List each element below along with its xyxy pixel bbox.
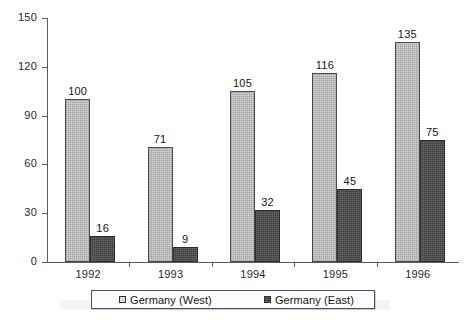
bar-value-label: 9 [182, 233, 188, 245]
y-tick-mark [42, 164, 47, 165]
x-tick-label: 1994 [240, 268, 265, 280]
x-tick-label: 1996 [405, 268, 430, 280]
bar-chart: 0306090120150 10016719105321164513575 19… [0, 0, 469, 323]
bar-group: 13575 [395, 18, 445, 262]
x-tick-label: 1995 [323, 268, 348, 280]
legend-item-germany-east: Germany (East) [264, 294, 354, 306]
bar-value-label: 116 [316, 59, 334, 71]
x-tick-mark [377, 262, 378, 267]
bar-group: 11645 [312, 18, 362, 262]
bar-value-label: 16 [96, 222, 109, 234]
bar-group: 10532 [230, 18, 280, 262]
legend-label-germany-west: Germany (West) [130, 294, 212, 306]
chart-legend: Germany (West) Germany (East) [91, 290, 375, 309]
bar: 32 [255, 210, 280, 262]
hollow-square-marker-icon [119, 296, 126, 303]
bar: 45 [337, 189, 362, 262]
x-tick-mark [129, 262, 130, 267]
bar-value-label: 45 [344, 175, 357, 187]
filled-square-marker-icon [264, 296, 271, 303]
bar: 71 [148, 147, 173, 262]
legend-item-germany-west: Germany (West) [119, 294, 212, 306]
y-tick-label: 60 [24, 157, 37, 169]
bar-value-label: 32 [261, 196, 274, 208]
bar: 16 [90, 236, 115, 262]
x-tick-mark [294, 262, 295, 267]
bar-group: 719 [148, 18, 198, 262]
y-tick-label: 150 [18, 11, 37, 23]
bar-value-label: 75 [426, 126, 439, 138]
bar: 135 [395, 42, 420, 262]
legend-label-germany-east: Germany (East) [275, 294, 354, 306]
y-tick-mark [42, 213, 47, 214]
x-tick-label: 1992 [76, 268, 101, 280]
y-tick-label: 120 [18, 60, 37, 72]
y-tick-mark [42, 67, 47, 68]
x-axis-line [47, 262, 459, 263]
x-tick-label: 1993 [158, 268, 183, 280]
bar: 100 [65, 99, 90, 262]
y-axis-line [47, 18, 48, 263]
x-tick-mark [212, 262, 213, 267]
bar-value-label: 135 [398, 28, 417, 40]
y-tick-mark [42, 18, 47, 19]
y-tick-label: 90 [24, 109, 37, 121]
bar-value-label: 105 [233, 77, 252, 89]
bar-value-label: 100 [68, 85, 87, 97]
y-tick-mark [42, 262, 47, 263]
y-tick-mark [42, 116, 47, 117]
bar: 75 [420, 140, 445, 262]
y-tick-label: 30 [24, 206, 37, 218]
bar-value-label: 71 [154, 133, 167, 145]
bar-group: 10016 [65, 18, 115, 262]
bar: 105 [230, 91, 255, 262]
y-tick-label: 0 [31, 255, 37, 267]
bar: 9 [173, 247, 198, 262]
bar: 116 [312, 73, 337, 262]
